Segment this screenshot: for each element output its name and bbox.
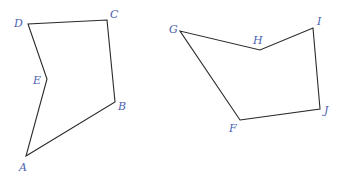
vertex-label-e: E xyxy=(32,74,41,87)
vertex-label-c: C xyxy=(110,8,119,21)
pentagon-abcde: ABCDE xyxy=(13,8,126,174)
vertex-label-j: J xyxy=(322,104,329,117)
vertex-label-i: I xyxy=(316,15,322,28)
vertex-label-g: G xyxy=(169,23,178,36)
vertex-label-f: F xyxy=(228,122,237,135)
pentagon-abcde-outline xyxy=(26,20,115,156)
polygon-diagram: ABCDE FJIHG xyxy=(0,0,348,182)
pentagon-fghij-outline xyxy=(180,28,320,120)
pentagon-fghij: FJIHG xyxy=(169,15,329,135)
vertex-label-a: A xyxy=(18,161,27,174)
vertex-label-b: B xyxy=(117,100,126,113)
vertex-label-h: H xyxy=(252,34,263,47)
vertex-label-d: D xyxy=(13,17,23,30)
